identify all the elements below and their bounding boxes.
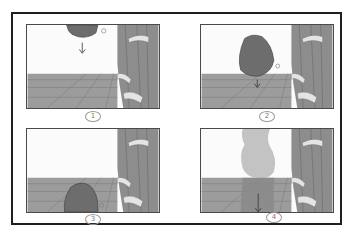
storyboard-panel-4 <box>200 128 334 213</box>
rock-trail-icon <box>241 178 274 212</box>
panel-label-3: 3 <box>85 214 101 225</box>
panel-label-1: 1 <box>85 111 101 122</box>
scene-4 <box>201 129 333 212</box>
scene-1 <box>27 25 159 108</box>
storyboard-panel-1 <box>26 24 160 109</box>
scene-3 <box>27 129 159 212</box>
storyboard-panel-2 <box>200 24 334 109</box>
panel-label-2: 2 <box>259 111 275 122</box>
scene-2 <box>201 25 333 108</box>
storyboard-panel-3 <box>26 128 160 213</box>
panel-label-4: 4 <box>266 212 282 223</box>
